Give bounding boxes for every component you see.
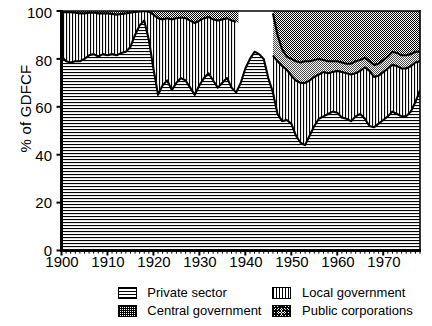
- swatch-central-government: [118, 305, 137, 317]
- legend-label-central-government: Central government: [147, 304, 266, 317]
- legend-label-local-government: Local government: [301, 286, 418, 299]
- swatch-local-government: [272, 287, 291, 299]
- swatch-public-corporations: [272, 305, 291, 317]
- swatch-private-sector: [118, 287, 137, 299]
- legend-label-private-sector: Private sector: [147, 286, 266, 299]
- plot-area: [0, 0, 432, 326]
- legend-label-public-corporations: Public corporations: [301, 304, 418, 317]
- legend: Private sector Local government Central …: [118, 285, 418, 318]
- chart-root: % of GDFCF 100 80 60 40 20 0 1900 1910 1…: [0, 0, 432, 326]
- stacked-areas: [62, 11, 421, 251]
